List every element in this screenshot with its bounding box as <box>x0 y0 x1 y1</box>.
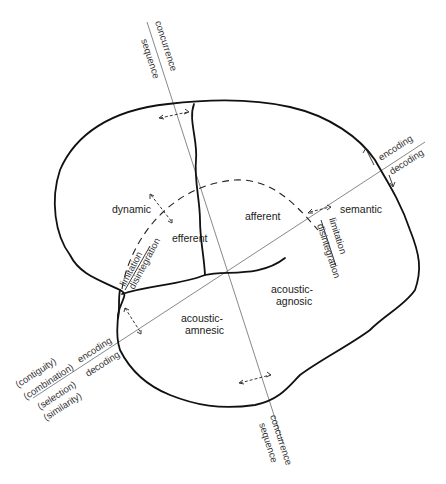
label-acoustic-agnosic-2: agnosic <box>276 295 312 307</box>
label-efferent: efferent <box>172 232 207 244</box>
temporal-notch-line <box>118 290 120 318</box>
label-acoustic-agnosic-1: acoustic- <box>271 283 314 295</box>
arrow-dynamic <box>150 194 172 223</box>
arrow-bottom <box>239 372 271 384</box>
arrow-top <box>159 109 189 119</box>
arrow-left-temporal <box>124 308 141 334</box>
label-semantic: semantic <box>340 203 382 215</box>
aphasia-diagram: dynamic efferent afferent semantic acous… <box>0 0 446 484</box>
label-acoustic-amnesic-1: acoustic- <box>181 312 224 324</box>
label-afferent: afferent <box>245 210 280 222</box>
central-sulcus-line <box>192 104 205 275</box>
arrow-semantic <box>308 205 331 213</box>
label-dynamic: dynamic <box>112 203 151 215</box>
label-acoustic-amnesic-2: amnesic <box>185 324 224 336</box>
vertical-axis-line <box>147 22 283 443</box>
